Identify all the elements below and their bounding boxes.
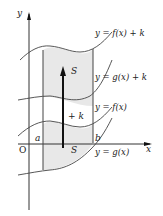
shift-label: + k (68, 112, 84, 121)
gk-curve-label: y = g(x) + k (95, 73, 147, 82)
x-axis-label: x (146, 145, 151, 154)
y-axis-arrow (27, 12, 31, 20)
y-axis-label: y (17, 9, 22, 18)
lower-area-label: S (71, 146, 77, 155)
b-label: b (95, 134, 101, 143)
upper-area-label: S (71, 67, 77, 76)
origin-label: O (19, 146, 26, 155)
lower-region (43, 121, 93, 170)
fk-curve-label: y = f(x) + k (95, 29, 145, 38)
f-curve-label: y = f(x) (95, 103, 127, 112)
g-curve-label: y = g(x) (95, 148, 129, 157)
upper-region (43, 47, 93, 106)
a-label: a (35, 134, 40, 143)
